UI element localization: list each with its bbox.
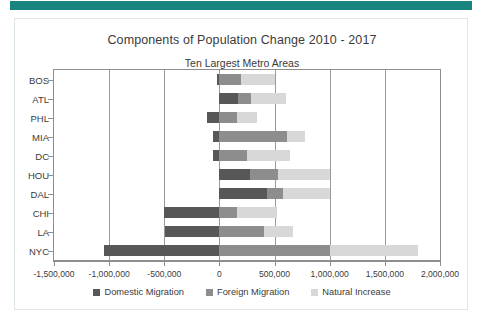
x-axis-tick: [275, 261, 276, 266]
bar-segment-natural: [247, 150, 290, 161]
x-axis-tick: [54, 261, 55, 266]
bar-segment-domestic: [219, 93, 238, 104]
bar-segment-foreign: [238, 93, 251, 104]
bar-segment-natural: [264, 226, 294, 237]
y-axis-ticks: [15, 69, 53, 261]
bar-segment-natural: [330, 245, 418, 256]
x-axis-label: 0: [217, 269, 222, 279]
legend-swatch-icon: [311, 289, 318, 296]
x-axis-label: -500,000: [147, 269, 181, 279]
bar-segment-domestic: [165, 226, 219, 237]
bar-segment-natural: [283, 188, 329, 199]
bar-segment-foreign: [219, 245, 329, 256]
x-axis-label: 1,000,000: [311, 269, 349, 279]
x-axis-tick: [219, 261, 220, 266]
x-axis-tick: [385, 261, 386, 266]
x-axis-label: -1,500,000: [33, 269, 74, 279]
bar-segment-domestic: [213, 131, 220, 142]
bar-segment-domestic: [219, 188, 266, 199]
bar-row: [54, 207, 440, 218]
x-axis-line: [53, 261, 441, 262]
x-axis-label: -1,000,000: [89, 269, 130, 279]
bar-segment-domestic: [104, 245, 220, 256]
x-axis-tick: [440, 261, 441, 266]
bar-segment-natural: [237, 207, 277, 218]
legend-item[interactable]: Foreign Migration: [206, 287, 289, 297]
bar-segment-foreign: [219, 131, 286, 142]
bar-segment-natural: [278, 169, 330, 180]
x-axis-tick: [330, 261, 331, 266]
bar-segment-domestic: [164, 207, 219, 218]
bar-segment-domestic: [219, 169, 250, 180]
legend-label: Domestic Migration: [104, 287, 184, 297]
chart-legend: Domestic MigrationForeign MigrationNatur…: [15, 287, 469, 297]
bar-segment-domestic: [213, 150, 220, 161]
plot-wrapper: BOSATLPHLMIADCHOUDALCHILANYC Domestic Mi…: [15, 19, 469, 311]
legend-item[interactable]: Natural Increase: [311, 287, 390, 297]
legend-item[interactable]: Domestic Migration: [93, 287, 184, 297]
x-axis-label: 2,000,000: [421, 269, 459, 279]
legend-swatch-icon: [206, 289, 213, 296]
bar-segment-foreign: [250, 169, 278, 180]
x-axis-label: 1,500,000: [366, 269, 404, 279]
legend-label: Natural Increase: [322, 287, 390, 297]
plot-area: [53, 69, 441, 261]
bar-row: [54, 131, 440, 142]
bar-segment-domestic: [207, 112, 219, 123]
bar-segment-natural: [287, 131, 306, 142]
bar-segment-foreign: [267, 188, 284, 199]
bar-row: [54, 74, 440, 85]
bar-row: [54, 93, 440, 104]
bar-row: [54, 245, 440, 256]
bar-row: [54, 188, 440, 199]
teal-header-bar: [10, 1, 472, 10]
legend-swatch-icon: [93, 289, 100, 296]
legend-label: Foreign Migration: [217, 287, 289, 297]
bar-segment-natural: [251, 93, 285, 104]
bar-row: [54, 169, 440, 180]
bar-segment-natural: [241, 74, 274, 85]
x-axis-tick: [109, 261, 110, 266]
x-axis-label: 500,000: [259, 269, 290, 279]
bar-segment-foreign: [219, 112, 237, 123]
bar-segment-foreign: [219, 226, 263, 237]
x-axis-tick: [164, 261, 165, 266]
bar-segment-foreign: [219, 207, 237, 218]
bar-row: [54, 226, 440, 237]
bar-segment-foreign: [219, 150, 247, 161]
chart-card: Components of Population Change 2010 - 2…: [14, 18, 468, 310]
bar-segment-natural: [237, 112, 257, 123]
gridline: [440, 70, 441, 260]
bar-segment-foreign: [219, 74, 241, 85]
bar-row: [54, 150, 440, 161]
bar-row: [54, 112, 440, 123]
